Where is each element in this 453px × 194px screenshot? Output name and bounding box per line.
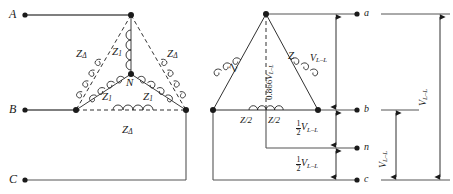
- vertex-dot-top: [128, 12, 134, 18]
- neutral-label-N: N: [126, 77, 133, 88]
- impedance-label-z-delta-bottom: ZΔ: [122, 124, 133, 136]
- v-symbol: V: [377, 162, 388, 168]
- impedance-label-z-delta-left: ZΔ: [76, 48, 87, 60]
- terminal-dot-b: [22, 107, 27, 112]
- v-subscript: L–L: [421, 89, 428, 100]
- dimension-arrows: [336, 14, 450, 180]
- impedance-label-z1-top: Z1: [112, 46, 122, 58]
- terminal-label-n: n: [364, 142, 369, 152]
- terminal-dot-n-right: [354, 145, 359, 150]
- wye-branch-c-line: [131, 74, 186, 110]
- coil-z-half-right: [266, 106, 283, 110]
- vertex-dot-apex-right: [263, 11, 269, 17]
- vertex-dot-right: [183, 107, 189, 113]
- v-subscript: L–L: [307, 162, 318, 169]
- z-subscript: Δ: [173, 51, 177, 60]
- vertex-dot-left-right: [210, 107, 216, 113]
- altitude-coefficient: 0.866: [264, 80, 274, 100]
- v-subscript: L–L: [307, 126, 318, 133]
- coil-z-delta-left: [77, 59, 101, 98]
- z-subscript: 1: [118, 49, 122, 58]
- terminal-dot-a-right: [354, 11, 359, 16]
- coil-z-delta-bottom: [113, 105, 153, 110]
- vertex-dot-left: [73, 107, 79, 113]
- v-symbol: V: [417, 100, 428, 106]
- delta-side-right: [131, 15, 186, 110]
- terminal-dot-c: [22, 177, 27, 182]
- dimension-label-b-n: 1 2 VL–L: [296, 120, 318, 137]
- z-subscript: Δ: [128, 127, 132, 136]
- terminal-label-c: c: [364, 174, 368, 184]
- v-subscript: L–L: [316, 56, 327, 63]
- vertex-dot-right-right: [315, 107, 321, 113]
- v-subscript: L–L: [381, 151, 388, 162]
- impedance-label-z1-lower-right: Z1: [143, 91, 153, 103]
- terminal-dot-a: [22, 12, 27, 17]
- coil-z-delta-right: [161, 59, 185, 98]
- altitude-symbol: V: [264, 74, 274, 80]
- right-network: [210, 11, 360, 183]
- coil-z-half-left: [249, 106, 266, 110]
- dimension-label-outer-b-c: VL–L: [378, 151, 389, 168]
- z-subscript: 1: [149, 94, 153, 103]
- terminal-dot-c-right: [354, 177, 359, 182]
- dimension-label-a-b: VL–L: [310, 53, 327, 64]
- terminal-label-a: a: [364, 8, 369, 18]
- coil-z1-top: [126, 30, 131, 70]
- terminal-label-B: B: [9, 103, 16, 115]
- dimension-label-n-c: 1 2 VL–L: [296, 156, 318, 173]
- impedance-label-z-half-right: Z/2: [268, 116, 280, 125]
- impedance-label-z-half-left: Z/2: [240, 116, 252, 125]
- z-subscript: 1: [108, 94, 112, 103]
- terminal-dot-b-right: [354, 107, 359, 112]
- impedance-label-z1-lower-left: Z1: [102, 91, 112, 103]
- altitude-voltage-label: 0.866VL–L: [265, 64, 274, 100]
- terminal-label-b: b: [364, 104, 369, 114]
- terminal-label-A: A: [9, 8, 16, 20]
- dimension-label-outer-a-c: VL–L: [418, 89, 429, 106]
- z-subscript: Δ: [82, 51, 86, 60]
- impedance-label-z-right: Z: [288, 50, 294, 61]
- triangle-side-left: [213, 14, 266, 110]
- impedance-label-z-delta-right: ZΔ: [167, 48, 178, 60]
- terminal-label-C: C: [9, 173, 17, 185]
- altitude-subscript: L–L: [268, 64, 274, 74]
